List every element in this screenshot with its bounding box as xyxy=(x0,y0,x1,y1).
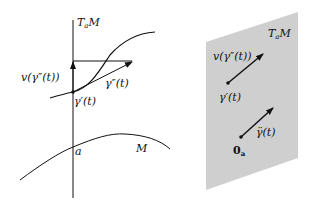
manifold-curve xyxy=(20,134,170,180)
tangent-space-label-left: TaM xyxy=(77,16,101,30)
lifted-curve xyxy=(50,32,155,98)
point-a-label: a xyxy=(75,145,82,158)
tangent-space-label-right: TaM xyxy=(268,27,292,41)
manifold-label: M xyxy=(135,142,148,155)
vertical-component-label-left: v(γ″(t)) xyxy=(21,71,59,84)
diagram-canvas: TaM v(γ″(t)) γ″(t) γ′(t) a M TaM v(γ″(t)… xyxy=(0,0,311,207)
diagram-svg: TaM v(γ″(t)) γ″(t) γ′(t) a M TaM v(γ″(t)… xyxy=(0,0,311,207)
velocity-label-right: γ′(t) xyxy=(219,91,241,104)
right-diagram: TaM v(γ″(t)) γ′(t) γ̈(t) 0a xyxy=(206,12,298,190)
velocity-label-left: γ′(t) xyxy=(74,95,96,108)
vertical-component-label-right: v(γ″(t)) xyxy=(213,50,251,63)
acceleration-label-left: γ″(t) xyxy=(105,77,129,90)
velocity-point xyxy=(71,90,75,94)
left-diagram: TaM v(γ″(t)) γ″(t) γ′(t) a M xyxy=(20,16,170,198)
origin-point xyxy=(239,135,243,139)
covariant-accel-label: γ̈(t) xyxy=(256,126,276,139)
velocity-point-right xyxy=(226,81,230,85)
